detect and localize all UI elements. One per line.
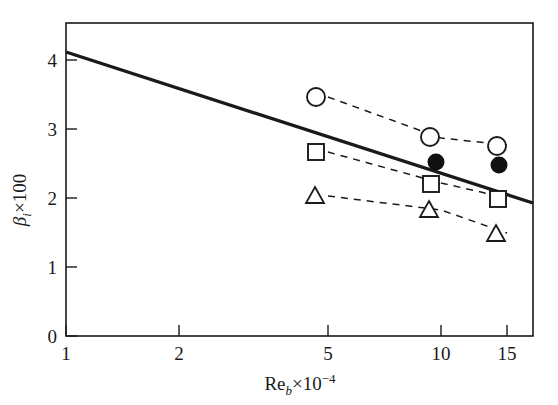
filled-circle-point-2 (491, 157, 508, 174)
open-square-point-2 (423, 176, 439, 192)
open-circle-point-1 (307, 88, 325, 106)
filled-circle-point-1 (428, 154, 445, 171)
open-square-point-3 (490, 191, 506, 207)
x-axis-title-exponent: −4 (322, 371, 336, 386)
x-axis-title-symbol: Re (264, 373, 285, 394)
y-tick-label-4: 4 (48, 50, 58, 71)
figure-root: 0 1 2 3 4 1 2 5 10 15 βi×100 Reb×10−4 (0, 0, 558, 405)
open-circle-point-2 (421, 128, 439, 146)
y-axis-title-factor: ×100 (9, 174, 30, 213)
y-tick-label-0: 0 (48, 326, 58, 347)
open-square-point-1 (308, 144, 324, 160)
scatter-chart: 0 1 2 3 4 1 2 5 10 15 βi×100 Reb×10−4 (0, 0, 558, 405)
y-tick-label-1: 1 (48, 257, 58, 278)
chart-background (0, 0, 558, 405)
x-tick-label-10: 10 (432, 343, 451, 364)
x-tick-label-1: 1 (61, 343, 71, 364)
open-circle-point-3 (488, 137, 506, 155)
x-tick-label-5: 5 (323, 343, 333, 364)
y-tick-label-3: 3 (48, 119, 58, 140)
x-tick-label-2: 2 (174, 343, 184, 364)
y-tick-label-2: 2 (48, 188, 58, 209)
x-axis-title-factor: ×10 (292, 373, 322, 394)
x-tick-label-15: 15 (498, 343, 517, 364)
y-axis-title-symbol: β (9, 216, 30, 227)
